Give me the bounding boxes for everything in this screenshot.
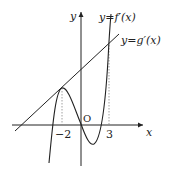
x-axis-arrow-icon — [138, 123, 143, 128]
g-prime-label: y=g′(x) — [121, 35, 161, 46]
tick-label-3: 3 — [106, 129, 113, 140]
graph-figure: y x O −2 3 y=f′(x) y=g′(x) — [0, 0, 169, 174]
origin-label: O — [83, 114, 91, 124]
graph-canvas — [0, 0, 169, 174]
f-prime-label: y=f′(x) — [99, 12, 136, 23]
tick-label-neg2: −2 — [55, 129, 71, 140]
y-axis-label: y — [70, 11, 76, 22]
g-prime-line — [15, 34, 119, 131]
x-axis-label: x — [146, 127, 152, 138]
y-axis-arrow-icon — [79, 12, 84, 17]
